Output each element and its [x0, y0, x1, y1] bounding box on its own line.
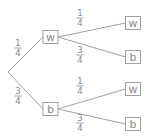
node-label: b [130, 118, 137, 131]
node-level2-w-b: b [126, 51, 141, 64]
node-label: w [129, 83, 138, 96]
fraction-denominator: 4 [15, 48, 20, 58]
edge-b-to-b [58, 109, 126, 124]
fraction-denominator: 4 [77, 86, 82, 96]
fraction-numerator: 3 [77, 45, 82, 55]
probability-tree-diagram: 143414341434 wbwbwb [0, 0, 150, 140]
node-level1-w: w [43, 31, 58, 44]
node-label: b [47, 103, 54, 116]
edge-w-to-w [58, 23, 126, 37]
tree-edges [8, 23, 126, 124]
node-level2-b-w: w [126, 83, 141, 96]
probability-label-b-b: 34 [77, 113, 84, 133]
fraction-numerator: 1 [15, 38, 20, 48]
edge-root-to-b [8, 72, 43, 109]
node-level2-b-b: b [126, 118, 141, 131]
probability-label-root-w: 14 [15, 38, 22, 58]
node-label: w [46, 31, 55, 44]
fraction-numerator: 1 [77, 8, 82, 18]
node-label: b [130, 51, 137, 64]
fraction-numerator: 3 [15, 86, 20, 96]
edge-b-to-w [58, 89, 126, 109]
node-level2-w-w: w [126, 17, 141, 30]
fraction-numerator: 3 [77, 113, 82, 123]
probability-label-b-w: 14 [77, 76, 84, 96]
fraction-denominator: 4 [77, 55, 82, 65]
fraction-denominator: 4 [77, 123, 82, 133]
probability-label-root-b: 34 [15, 86, 22, 106]
tree-nodes: wbwbwb [43, 17, 141, 131]
edge-root-to-w [8, 37, 43, 72]
probability-label-w-b: 34 [77, 45, 84, 65]
node-label: w [129, 17, 138, 30]
fraction-denominator: 4 [77, 18, 82, 28]
edge-w-to-b [58, 37, 126, 57]
node-level1-b: b [43, 103, 58, 116]
fraction-denominator: 4 [15, 96, 20, 106]
probability-label-w-w: 14 [77, 8, 84, 28]
fraction-numerator: 1 [77, 76, 82, 86]
